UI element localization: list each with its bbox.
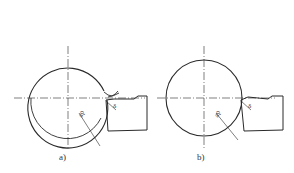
- panel-a-drawing: [14, 46, 147, 150]
- panel-a-angle-label: δ: [113, 102, 116, 110]
- panel-b-caption: b): [197, 152, 205, 162]
- diagram-canvas: [0, 0, 294, 173]
- panel-a-chip: [104, 91, 119, 97]
- panel-b-angle-label: δ: [248, 102, 251, 110]
- panel-a-machined-arc: [31, 98, 101, 139]
- panel-a-caption: a): [59, 152, 66, 162]
- panel-b-drawing: [157, 46, 283, 150]
